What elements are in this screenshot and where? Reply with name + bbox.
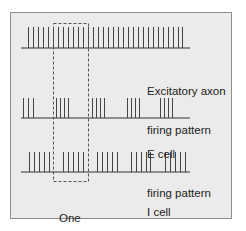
excitatory-axon-spike-train [21, 27, 190, 48]
one-cycle-label: One cycle [59, 186, 85, 231]
excitatory-axon-label-line1: Excitatory axon [147, 85, 226, 98]
one-cycle-label-line1: One [59, 212, 85, 225]
i-cell-label: I cell firing pattern [147, 180, 211, 231]
i-cell-label-line1: I cell [147, 206, 211, 219]
e-cell-label-line1: E cell [147, 148, 211, 161]
